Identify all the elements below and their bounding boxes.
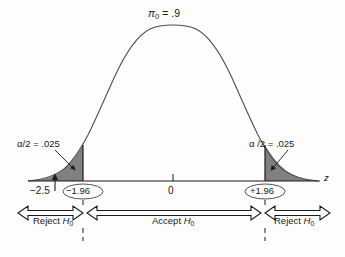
alpha-left-label: α/2 = .025 bbox=[17, 139, 60, 149]
alpha-right-leader-line bbox=[273, 150, 288, 168]
alpha-left-leader-line bbox=[55, 150, 73, 168]
plot-title: π0 = .9 bbox=[148, 8, 180, 20]
alpha-right-label: α /2 = .025 bbox=[249, 139, 294, 149]
critical-value-left-label: −1.96 bbox=[66, 186, 90, 196]
zero-tick-label: 0 bbox=[168, 186, 174, 196]
accept-region-label: Accept H0 bbox=[152, 216, 194, 227]
observed-value-label: −2.5 bbox=[30, 186, 50, 196]
z-axis-label: z bbox=[324, 173, 329, 183]
right-rejection-tail-shading bbox=[265, 145, 318, 181]
hypothesis-test-figure: π0 = .9 α/2 = .025 α /2 = .025 −2.5 −1.9… bbox=[0, 0, 345, 257]
reject-region-right-label: Reject H0 bbox=[274, 216, 314, 227]
reject-region-left-label: Reject H0 bbox=[33, 216, 73, 227]
normal-curve bbox=[28, 25, 318, 181]
critical-value-right-label: +1.96 bbox=[250, 186, 274, 196]
